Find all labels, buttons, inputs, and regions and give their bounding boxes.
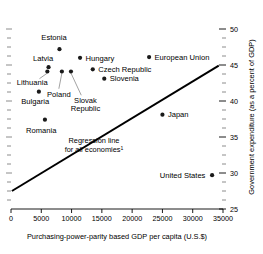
data-point-label: Estonia	[41, 33, 67, 42]
data-point-label: Lithuania	[17, 78, 49, 87]
data-point-label: Czech Republic	[98, 65, 151, 74]
x-axis-ticks	[11, 209, 223, 213]
data-point-label: Poland	[47, 90, 71, 99]
x-tick-label: 30000	[183, 214, 203, 223]
data-point-label: Bulgaria	[21, 97, 50, 106]
x-tick-label: 15000	[92, 214, 112, 223]
y-tick-label: 45	[230, 61, 238, 70]
y-axis-title: Government expenditure (as a percent of …	[247, 39, 256, 194]
label-leader-line	[59, 73, 62, 89]
x-tick-label: 25000	[152, 214, 172, 223]
data-point-marker[interactable]	[210, 173, 214, 177]
data-point-marker[interactable]	[37, 90, 41, 94]
data-point-marker[interactable]	[147, 55, 151, 59]
x-tick-label: 20000	[122, 214, 142, 223]
scatter-chart-figure: 05000100001500020000250003000035000 2530…	[0, 0, 263, 254]
x-tick-label: 10000	[62, 214, 82, 223]
data-point-marker[interactable]	[60, 69, 64, 73]
data-point-marker[interactable]	[43, 118, 47, 122]
data-point-label: Hungary	[86, 54, 115, 63]
x-axis-tick-labels: 05000100001500020000250003000035000	[9, 214, 233, 223]
label-leader-line	[71, 73, 81, 95]
chart-canvas: 05000100001500020000250003000035000 2530…	[0, 0, 263, 254]
regression-annotation: Regression line for all economies1	[65, 136, 124, 154]
data-point-label: European Union	[155, 53, 210, 62]
y-tick-label: 50	[230, 25, 238, 34]
data-point-labels: EstoniaHungaryEuropean UnionLatviaCzech …	[17, 33, 210, 180]
data-point-marker[interactable]	[57, 47, 61, 51]
regression-annotation-line2: for all economies1	[65, 145, 124, 155]
data-point-label: Japan	[168, 110, 189, 119]
x-tick-label: 0	[9, 214, 13, 223]
data-point-marker[interactable]	[69, 69, 73, 73]
y-axis-tick-labels: 253035404550	[230, 25, 238, 214]
y-tick-label: 30	[230, 169, 238, 178]
regression-annotation-line1: Regression line	[69, 136, 120, 145]
y-tick-label: 25	[230, 205, 238, 214]
y-tick-label: 40	[230, 97, 238, 106]
x-tick-label: 35000	[213, 214, 233, 223]
data-point-marker[interactable]	[45, 69, 49, 73]
data-point-label: United States	[160, 171, 206, 180]
x-tick-label: 5000	[33, 214, 49, 223]
extra-annotation-labels: Republic	[71, 104, 101, 113]
y-tick-label: 35	[230, 133, 238, 142]
data-point-label: Romania	[26, 126, 57, 135]
data-point-marker[interactable]	[46, 65, 50, 69]
data-point-label: Latvia	[33, 54, 54, 63]
x-axis-title: Purchasing-power-parity based GDP per ca…	[27, 232, 207, 241]
data-point-label: Slovenia	[110, 74, 140, 83]
data-point-marker[interactable]	[78, 56, 82, 60]
data-point-marker[interactable]	[91, 67, 95, 71]
data-point-marker[interactable]	[160, 113, 164, 117]
extra-annotation-label: Republic	[71, 104, 101, 113]
data-point-marker[interactable]	[102, 77, 106, 81]
